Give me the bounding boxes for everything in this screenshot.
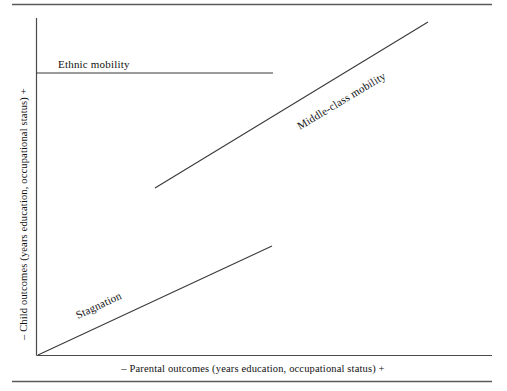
intergenerational-mobility-chart: – Child outcomes (years education, occup…: [0, 0, 507, 391]
y-axis-label: – Child outcomes (years education, occup…: [18, 88, 30, 341]
ethnic-mobility-label: Ethnic mobility: [58, 58, 130, 70]
x-axis-label: – Parental outcomes (years education, oc…: [120, 363, 384, 375]
